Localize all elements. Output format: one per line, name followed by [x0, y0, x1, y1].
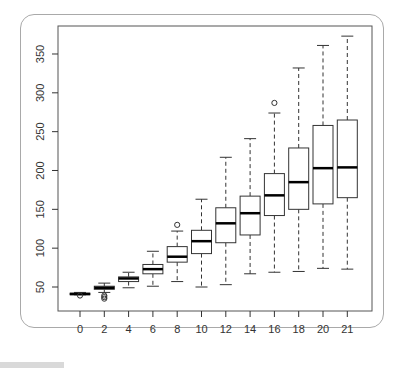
- x-axis: 0246810121416182021: [77, 311, 353, 335]
- iqr-box: [167, 247, 187, 263]
- box-10: [192, 199, 212, 287]
- box-8: [167, 222, 187, 281]
- x-tick-label: 4: [126, 323, 132, 335]
- box-2: [94, 283, 114, 301]
- box-20: [313, 45, 333, 268]
- y-tick-label: 200: [34, 161, 46, 179]
- x-tick-label: 8: [174, 323, 180, 335]
- x-tick-label: 16: [268, 323, 280, 335]
- box-6: [143, 251, 163, 286]
- iqr-box: [289, 148, 309, 209]
- box-21: [337, 36, 357, 269]
- box-16: [264, 100, 284, 272]
- x-tick-label: 0: [77, 323, 83, 335]
- y-tick-label: 250: [34, 122, 46, 140]
- y-tick-label: 150: [34, 200, 46, 218]
- y-tick-label: 100: [34, 239, 46, 257]
- x-tick-label: 10: [195, 323, 207, 335]
- iqr-box: [216, 208, 236, 243]
- y-tick-label: 50: [34, 281, 46, 293]
- outlier-point: [175, 222, 180, 227]
- y-axis: 50100150200250300350: [34, 45, 58, 293]
- x-tick-label: 12: [220, 323, 232, 335]
- box-14: [240, 139, 260, 274]
- box-0: [70, 292, 90, 298]
- x-tick-label: 6: [150, 323, 156, 335]
- boxes: [70, 36, 357, 301]
- x-tick-label: 18: [293, 323, 305, 335]
- x-tick-label: 2: [101, 323, 107, 335]
- boxplot-chart: 50100150200250300350 0246810121416182021: [0, 0, 399, 368]
- x-tick-label: 14: [244, 323, 256, 335]
- y-tick-label: 300: [34, 84, 46, 102]
- box-18: [289, 68, 309, 271]
- y-tick-label: 350: [34, 45, 46, 63]
- iqr-box: [313, 125, 333, 203]
- x-tick-label: 20: [317, 323, 329, 335]
- iqr-box: [337, 120, 357, 198]
- iqr-box: [240, 196, 260, 235]
- box-4: [119, 272, 139, 288]
- outlier-point: [272, 100, 277, 105]
- box-12: [216, 157, 236, 284]
- x-tick-label: 21: [341, 323, 353, 335]
